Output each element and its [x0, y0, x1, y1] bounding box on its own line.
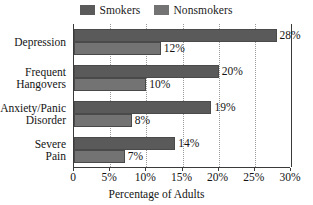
x-tick-label: 30%: [279, 171, 300, 184]
x-tick-label: 25%: [243, 171, 264, 184]
y-axis-label-line: Disorder: [0, 114, 66, 127]
x-tick-label: 5%: [101, 171, 116, 184]
bar-group: 19%8%: [74, 96, 290, 132]
bar-group: 20%10%: [74, 60, 290, 96]
bar-group: 14%7%: [74, 132, 290, 168]
legend-label-smokers: Smokers: [99, 4, 140, 16]
bar-value-label: 19%: [214, 100, 235, 114]
bar-row: 20%: [74, 65, 291, 78]
y-axis-label-line: Anxiety/Panic: [0, 102, 66, 115]
x-axis-title: Percentage of Adults: [0, 188, 313, 201]
bar-row: 7%: [74, 150, 291, 163]
bar-value-label: 12%: [164, 41, 185, 55]
bar-value-label: 10%: [149, 77, 170, 91]
y-axis-label: Anxiety/PanicDisorder: [0, 102, 66, 127]
x-tick-label: 10%: [135, 171, 156, 184]
bar-row: 10%: [74, 78, 291, 91]
plot-area: 28%12%20%10%19%8%14%7%: [73, 24, 290, 168]
y-axis-label: FrequentHangovers: [0, 66, 66, 91]
bar-value-label: 8%: [135, 113, 150, 127]
y-axis-label-line: Depression: [0, 36, 66, 49]
bar-smokers[interactable]: [74, 137, 175, 150]
bar-row: 14%: [74, 137, 291, 150]
x-tick-label: 15%: [171, 171, 192, 184]
chart-legend: Smokers Nonsmokers: [0, 2, 313, 18]
bar-nonsmokers[interactable]: [74, 78, 146, 91]
bar-value-label: 14%: [178, 136, 199, 150]
bar-chart: Smokers Nonsmokers DepressionFrequentHan…: [0, 0, 313, 205]
legend-swatch-nonsmokers: [154, 5, 169, 15]
bar-nonsmokers[interactable]: [74, 114, 132, 127]
y-axis-label-line: Hangovers: [0, 78, 66, 91]
bar-group: 28%12%: [74, 24, 290, 60]
gridline-30%: [291, 24, 292, 167]
legend-entry-smokers: Smokers: [80, 4, 140, 16]
bar-smokers[interactable]: [74, 65, 219, 78]
bar-row: 8%: [74, 114, 291, 127]
bar-value-label: 7%: [128, 149, 143, 163]
legend-entry-nonsmokers: Nonsmokers: [154, 4, 232, 16]
bar-nonsmokers[interactable]: [74, 42, 161, 55]
legend-label-nonsmokers: Nonsmokers: [173, 4, 232, 16]
bar-row: 19%: [74, 101, 291, 114]
y-axis-category-labels: DepressionFrequentHangoversAnxiety/Panic…: [0, 24, 70, 168]
bar-value-label: 28%: [280, 28, 301, 42]
y-axis-label: SeverePain: [0, 138, 66, 163]
bar-nonsmokers[interactable]: [74, 150, 125, 163]
y-axis-label-line: Severe: [0, 138, 66, 151]
bar-row: 12%: [74, 42, 291, 55]
y-axis-label-line: Pain: [0, 150, 66, 163]
y-axis-label-line: Frequent: [0, 66, 66, 79]
x-tick-label: 0: [70, 171, 76, 184]
x-axis-ticks: 05%10%15%20%25%30%: [73, 168, 290, 182]
bar-value-label: 20%: [222, 64, 243, 78]
legend-swatch-smokers: [80, 5, 95, 15]
x-tick-label: 20%: [207, 171, 228, 184]
bar-groups: 28%12%20%10%19%8%14%7%: [74, 24, 290, 167]
y-axis-label: Depression: [0, 36, 66, 49]
